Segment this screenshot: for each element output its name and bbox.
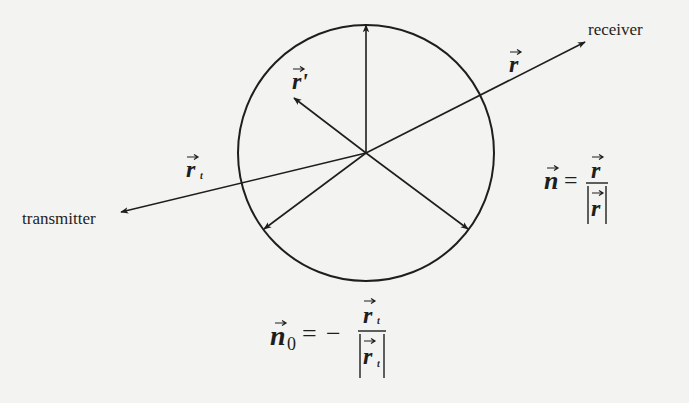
formula-n-unit-vector: n = r r bbox=[544, 155, 608, 225]
r-prime-vector-label: r' bbox=[292, 67, 308, 95]
svg-text:r: r bbox=[363, 343, 373, 369]
lower-right-arrow bbox=[366, 153, 468, 229]
svg-text:r: r bbox=[509, 51, 519, 77]
svg-text:t: t bbox=[200, 170, 204, 181]
svg-text:n: n bbox=[544, 166, 558, 195]
svg-text:r: r bbox=[591, 157, 601, 183]
formula-n0-unit-vector: n 0 = − r t r t bbox=[270, 299, 386, 379]
r-prime-arrow bbox=[294, 98, 366, 153]
svg-text:n: n bbox=[270, 320, 286, 351]
r-vector-label: r bbox=[509, 50, 521, 78]
svg-text:r: r bbox=[186, 156, 196, 182]
svg-text:=: = bbox=[564, 167, 578, 193]
diagram-canvas: receiver transmitter r r' r t n = r bbox=[0, 0, 689, 403]
scattering-diagram: receiver transmitter r r' r t n = r bbox=[0, 0, 689, 403]
r-t-vector-label: r t bbox=[186, 155, 204, 183]
svg-text:0: 0 bbox=[287, 334, 296, 354]
r-t-arrow-to-transmitter bbox=[121, 153, 366, 212]
receiver-label: receiver bbox=[588, 20, 643, 39]
svg-text:−: − bbox=[326, 319, 341, 348]
svg-text:=: = bbox=[302, 319, 317, 348]
svg-text:t: t bbox=[377, 358, 381, 369]
svg-text:t: t bbox=[377, 315, 381, 326]
svg-text:r: r bbox=[363, 302, 373, 328]
transmitter-label: transmitter bbox=[22, 209, 96, 228]
lower-left-arrow bbox=[264, 153, 366, 229]
svg-text:r: r bbox=[591, 195, 601, 221]
svg-text:r': r' bbox=[292, 68, 308, 94]
r-arrow-to-receiver bbox=[366, 42, 585, 153]
